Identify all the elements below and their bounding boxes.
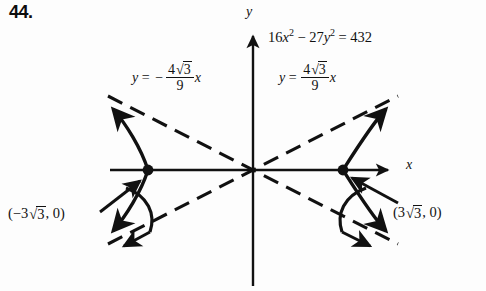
asymptote-left-sign: − (153, 71, 165, 86)
asymptote-left-var: x (195, 71, 201, 86)
asymptote-right-numer-coef: 4 (303, 62, 310, 77)
asymptote-right-denominator: 9 (309, 78, 320, 94)
vertex-dot-right (338, 165, 349, 176)
vertex-right-coef: 3 (398, 205, 405, 220)
leader-arrow-left-to-vertex (100, 181, 140, 212)
vertex-left-sqrt-icon: √3 (28, 206, 45, 222)
equation-exp-x: 2 (289, 28, 294, 39)
asymptote-left-numer-coef: 4 (168, 62, 175, 77)
hyperbola-figure (0, 0, 486, 291)
asymptote-left-sqrt-icon: √3 (175, 61, 192, 77)
asymptote-leader-arrows (124, 232, 370, 246)
equation-equals-sign: = (335, 30, 350, 45)
vertex-coordinate-label-right: (3√3, 0) (393, 204, 442, 221)
vertex-right-sqrt-icon: √3 (405, 205, 422, 221)
vertex-dot-left (143, 165, 154, 176)
equation-coef-x: 16 (268, 30, 283, 45)
asymptote-left-fraction: 4√3 9 (166, 61, 194, 94)
hyperbola-equation: 16x2 − 27y2 = 432 (268, 29, 372, 45)
figure-page: 44. (0, 0, 486, 291)
equation-coef-y: 27 (309, 30, 324, 45)
asymptote-left-radicand: 3 (183, 61, 192, 77)
asymptote-left-equals: = (138, 71, 153, 86)
vertex-right-comma: , (422, 205, 426, 220)
asymptote-leader-right (342, 232, 370, 246)
asymptote-right-sqrt-icon: √3 (310, 61, 327, 77)
vertex-left-sign: − (13, 206, 21, 221)
asymptote-right-numerator: 4√3 (301, 61, 329, 77)
asymptote-equation-left: y = − 4√3 9 x (132, 62, 201, 95)
vertex-left-y-value: 0 (53, 206, 60, 221)
vertex-left-coef: 3 (21, 206, 28, 221)
asymptote-right-equals: = (285, 71, 300, 86)
equation-right-hand-side: 432 (350, 30, 372, 45)
equation-minus-sign: − (294, 30, 309, 45)
asymptote-right-var: x (330, 71, 336, 86)
vertex-right-close-paren: ) (437, 205, 442, 220)
y-axis-label: y (246, 5, 252, 20)
asymptote-left-denominator: 9 (174, 78, 185, 94)
vertex-right-y-value: 0 (430, 205, 437, 220)
vertex-right-radicand: 3 (413, 205, 422, 221)
vertex-left-comma: , (46, 206, 50, 221)
asymptote-right-radicand: 3 (318, 61, 327, 77)
vertex-left-close-paren: ) (60, 206, 65, 221)
x-axis-label: x (406, 158, 412, 173)
asymptote-leader-left (124, 232, 150, 246)
asymptote-right-fraction: 4√3 9 (301, 61, 329, 94)
asymptote-left-numerator: 4√3 (166, 61, 194, 77)
equation-exp-y: 2 (330, 28, 335, 39)
vertex-coordinate-label-left: (−3√3, 0) (8, 205, 65, 222)
asymptote-equation-right: y = 4√3 9 x (279, 62, 336, 95)
vertex-left-radicand: 3 (36, 206, 45, 222)
